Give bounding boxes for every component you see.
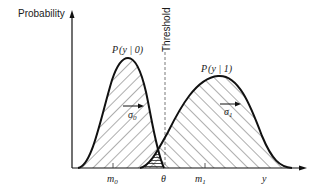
- threshold-label: Threshold: [161, 8, 172, 52]
- curve-1-label: P(y | 1): [200, 63, 233, 75]
- m0-label: m0: [107, 173, 118, 186]
- y-axis-label: Probability: [18, 8, 65, 19]
- x-axis-label: y: [261, 173, 267, 184]
- x-axis-arrow-icon: [299, 166, 307, 171]
- curve-0-label: P(y | 0): [111, 44, 144, 56]
- threshold-symbol: θ: [161, 173, 166, 184]
- y-axis-arrow-icon: [70, 10, 75, 18]
- m1-label: m1: [195, 173, 206, 186]
- probability-diagram: Probability Threshold P(y | 0) P(y | 1) …: [0, 0, 315, 191]
